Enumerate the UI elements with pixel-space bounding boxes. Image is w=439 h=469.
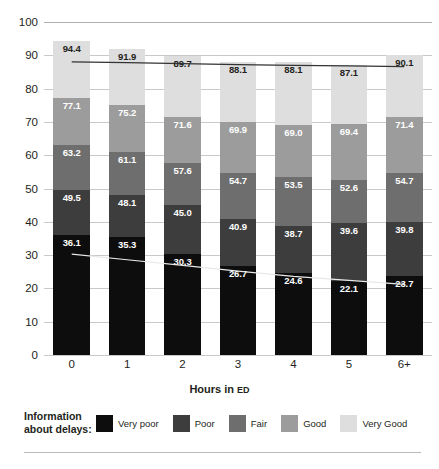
gridline: [44, 355, 432, 356]
bar-segment[interactable]: 57.6: [164, 163, 201, 205]
x-axis-title-abbrev: ED: [237, 385, 250, 395]
legend-label: Fair: [251, 418, 267, 429]
bar-segment[interactable]: 54.7: [386, 173, 423, 223]
bar-value-label: 38.7: [275, 228, 312, 239]
bar-segment[interactable]: 94.4: [53, 41, 90, 99]
legend-item[interactable]: Very poor: [96, 415, 159, 432]
bar-segment[interactable]: 52.6: [331, 180, 368, 223]
bar-value-label: 49.5: [53, 192, 90, 203]
bar-value-label: 52.6: [331, 182, 368, 193]
bar-segment[interactable]: 38.7: [275, 226, 312, 273]
legend-swatch: [173, 415, 190, 432]
bar-value-label: 54.7: [386, 175, 423, 186]
plot-area: 0102030405060708090100 36.149.563.277.19…: [44, 22, 432, 355]
legend-item[interactable]: Good: [281, 415, 326, 432]
bar-segment[interactable]: 75.2: [109, 105, 146, 152]
bar-value-label: 22.1: [331, 283, 368, 294]
bar-segment[interactable]: 40.9: [220, 219, 257, 266]
legend-title: Information about delays:: [24, 410, 96, 436]
bar-0[interactable]: 36.149.563.277.194.4: [53, 41, 90, 355]
bar-value-label: 75.2: [109, 107, 146, 118]
bar-value-label: 53.5: [275, 179, 312, 190]
bar-segment[interactable]: 71.4: [386, 117, 423, 173]
bar-value-label: 45.0: [164, 207, 201, 218]
bar-segment[interactable]: 63.2: [53, 145, 90, 191]
bar-segment[interactable]: 24.6: [275, 273, 312, 355]
x-axis-tick-label: 2: [179, 358, 185, 370]
bar-1[interactable]: 35.348.161.175.291.9: [109, 49, 146, 355]
bar-5[interactable]: 22.139.652.669.487.1: [331, 65, 368, 355]
bar-segment[interactable]: 61.1: [109, 152, 146, 195]
y-axis-tick-label: 40: [25, 216, 38, 228]
bar-value-label: 89.7: [164, 58, 201, 69]
bar-segment[interactable]: 39.8: [386, 222, 423, 276]
y-axis-tick-label: 100: [19, 16, 38, 28]
bar-segment[interactable]: 36.1: [53, 235, 90, 355]
bar-value-label: 39.8: [386, 224, 423, 235]
bar-4[interactable]: 24.638.753.569.088.1: [275, 62, 312, 355]
bar-segment[interactable]: 87.1: [331, 65, 368, 124]
bar-value-label: 94.4: [53, 43, 90, 54]
y-axis-tick-label: 80: [25, 83, 38, 95]
legend-items: Very poorPoorFairGoodVery Good: [96, 415, 421, 432]
bar-value-label: 40.9: [220, 221, 257, 232]
bar-segment[interactable]: 54.7: [220, 173, 257, 219]
bar-value-label: 26.7: [220, 268, 257, 279]
bar-value-label: 57.6: [164, 165, 201, 176]
bar-segment[interactable]: 23.7: [386, 276, 423, 355]
bar-segment[interactable]: 30.3: [164, 254, 201, 355]
bar-6+[interactable]: 23.739.854.771.490.1: [386, 55, 423, 355]
bar-segment[interactable]: 26.7: [220, 266, 257, 355]
bar-value-label: 71.6: [164, 119, 201, 130]
x-axis-tick-label: 6+: [398, 358, 411, 370]
legend-label: Very Good: [362, 418, 407, 429]
x-axis-ticks: 0123456+: [44, 358, 432, 374]
bar-3[interactable]: 26.740.954.769.988.1: [220, 62, 257, 355]
bar-value-label: 63.2: [53, 147, 90, 158]
bar-segment[interactable]: 22.1: [331, 281, 368, 355]
y-axis-tick-label: 50: [25, 183, 38, 195]
bar-segment[interactable]: 48.1: [109, 195, 146, 238]
bar-segment[interactable]: 77.1: [53, 98, 90, 144]
y-axis-tick-label: 60: [25, 149, 38, 161]
bar-segment[interactable]: 90.1: [386, 55, 423, 117]
bar-segment[interactable]: 69.0: [275, 125, 312, 177]
bar-segment[interactable]: 45.0: [164, 205, 201, 254]
bar-value-label: 61.1: [109, 154, 146, 165]
legend-swatch: [340, 415, 357, 432]
legend-item[interactable]: Fair: [229, 415, 267, 432]
bar-segment[interactable]: 88.1: [275, 62, 312, 126]
y-axis-tick-label: 10: [25, 316, 38, 328]
bar-segment[interactable]: 69.4: [331, 124, 368, 180]
bar-value-label: 90.1: [386, 57, 423, 68]
bar-segment[interactable]: 69.9: [220, 122, 257, 173]
bar-segment[interactable]: 71.6: [164, 117, 201, 164]
x-axis-title: Hours in ED: [0, 383, 439, 395]
legend: Information about delays: Very poorPoorF…: [24, 410, 421, 436]
y-axis-tick-label: 70: [25, 116, 38, 128]
bar-value-label: 30.3: [164, 256, 201, 267]
x-axis-tick-label: 4: [290, 358, 296, 370]
bar-value-label: 48.1: [109, 197, 146, 208]
y-axis-tick-label: 20: [25, 282, 38, 294]
bar-segment[interactable]: 91.9: [109, 49, 146, 105]
bar-value-label: 71.4: [386, 119, 423, 130]
bar-value-label: 77.1: [53, 100, 90, 111]
bar-segment[interactable]: 35.3: [109, 237, 146, 355]
legend-item[interactable]: Poor: [173, 415, 215, 432]
bar-value-label: 69.0: [275, 127, 312, 138]
bar-segment[interactable]: 49.5: [53, 190, 90, 235]
legend-label: Poor: [195, 418, 215, 429]
y-axis-tick-label: 30: [25, 249, 38, 261]
legend-item[interactable]: Very Good: [340, 415, 407, 432]
bar-segment[interactable]: 53.5: [275, 177, 312, 226]
bar-value-label: 69.4: [331, 126, 368, 137]
bar-value-label: 69.9: [220, 124, 257, 135]
footer-divider: [24, 452, 421, 453]
bar-segment[interactable]: 39.6: [331, 223, 368, 281]
bar-2[interactable]: 30.345.057.671.689.7: [164, 56, 201, 355]
legend-label: Good: [303, 418, 326, 429]
bar-segment[interactable]: 89.7: [164, 56, 201, 116]
bar-segment[interactable]: 88.1: [220, 62, 257, 123]
x-axis-title-main: Hours in: [189, 383, 237, 395]
